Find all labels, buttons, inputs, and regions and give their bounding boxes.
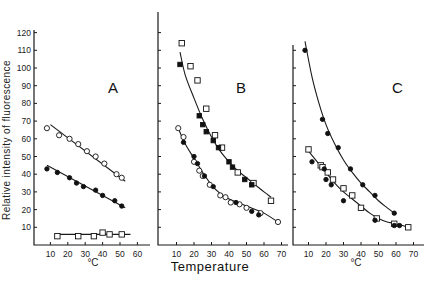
data-points-layer [44,41,411,239]
square-marker [268,198,273,203]
x-axis-title-b: Temperature [171,259,249,274]
circle-marker [44,126,49,131]
circle-marker [303,48,307,52]
x-tick-label: 20 [321,249,331,259]
circle-marker [324,177,328,181]
x-tick-label: 70 [277,249,287,259]
square-marker [250,183,254,187]
circle-marker [348,167,352,171]
square-marker [76,233,81,238]
axis-lines [34,30,150,245]
y-tick-label: 80 [22,98,32,108]
square-marker [179,41,184,46]
circle-marker [181,134,186,139]
circle-marker [74,181,78,185]
chart-canvas: 1020304050607080901001101201020304050601… [0,0,435,286]
circle-marker [211,184,215,188]
circle-marker [373,218,377,222]
square-marker [330,177,335,182]
fit-line [305,41,394,213]
axis-lines [293,45,424,245]
x-tick-label: 50 [374,249,384,259]
x-tick-label: 60 [391,249,401,259]
y-tick-label: 90 [22,81,32,91]
circle-marker [195,161,199,165]
square-marker [107,232,112,237]
circle-marker [326,131,330,135]
circle-marker [322,167,326,171]
circle-marker [202,174,206,178]
circle-marker [320,117,324,121]
fit-curves-layer [47,41,408,234]
panel-b: 10203040506070 [158,12,288,259]
figure: 1020304050607080901001101201020304050601… [0,0,435,286]
fit-line [178,128,278,222]
x-tick-label: 50 [115,249,125,259]
circle-marker [197,168,202,173]
y-tick-label: 110 [17,45,31,55]
circle-marker [181,140,185,144]
square-marker [358,205,363,210]
square-marker [188,64,193,69]
x-unit-label-a: °C [87,257,98,268]
circle-marker [57,133,62,138]
circle-marker [397,223,401,227]
circle-marker [55,170,59,174]
x-tick-label: 40 [224,249,234,259]
square-marker [406,225,411,230]
square-marker [306,147,311,152]
circle-marker [250,209,254,213]
y-tick-label: 10 [22,222,32,232]
square-marker [201,122,205,126]
circle-marker [120,204,124,208]
x-tick-label: 10 [46,249,56,259]
panel-label-a: A [108,79,118,96]
circle-marker [329,183,333,187]
circle-marker [275,219,280,224]
square-marker [227,160,231,164]
circle-marker [45,167,49,171]
x-tick-label: 40 [98,249,108,259]
circle-marker [93,154,98,159]
panel-c: 10203040506070 [293,45,424,259]
square-marker [204,130,208,134]
circle-marker [76,142,81,147]
circle-marker [341,199,345,203]
circle-marker [192,154,196,158]
circle-marker [100,193,104,197]
y-tick-label: 70 [22,116,32,126]
square-marker [341,186,346,191]
panel-label-b: B [236,79,246,96]
circle-marker [93,188,97,192]
square-marker [211,138,215,142]
circle-marker [392,223,396,227]
circle-marker [84,149,89,154]
axes-layer: 1020304050607080901001101201020304050601… [17,12,424,259]
y-tick-label: 40 [22,169,32,179]
circle-marker [102,161,107,166]
circle-marker [113,199,117,203]
y-tick-label: 120 [17,28,31,38]
panel-a: 102030405060708090100110120102030405060 [17,28,150,259]
y-tick-label: 30 [22,187,32,197]
square-marker [55,233,60,238]
circle-marker [119,175,124,180]
circle-marker [392,211,396,215]
square-marker [216,145,220,149]
panel-label-c: C [392,79,403,96]
square-marker [195,78,200,83]
x-unit-label-c: °C [350,257,361,268]
y-axis-title: Relative intensity of fluorescence [1,60,12,220]
y-tick-label: 50 [22,152,32,162]
x-tick-label: 60 [133,249,143,259]
square-marker [350,193,355,198]
circle-marker [361,183,365,187]
square-marker [243,177,247,181]
x-tick-label: 60 [259,249,269,259]
circle-marker [373,193,377,197]
fit-line [180,52,271,197]
circle-marker [310,160,314,164]
y-tick-label: 20 [22,205,32,215]
circle-marker [244,205,249,210]
x-tick-label: 10 [172,249,182,259]
